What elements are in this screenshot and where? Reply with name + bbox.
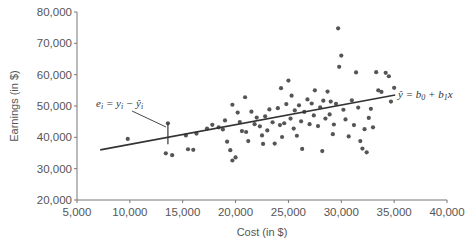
data-point — [323, 116, 327, 120]
data-point — [273, 142, 277, 146]
data-point — [328, 112, 332, 116]
scatter-chart: 5,00010,00015,00020,00025,00030,00035,00… — [0, 0, 476, 242]
y-tick-label: 20,000 — [37, 194, 72, 206]
y-tick-label: 30,000 — [37, 163, 72, 175]
y-tick-label: 40,000 — [37, 131, 72, 143]
x-tick-label: 40,000 — [429, 206, 464, 218]
data-point — [258, 124, 262, 128]
residual-leader — [132, 111, 166, 127]
data-point — [300, 147, 304, 151]
data-point — [339, 53, 343, 57]
x-axis-label: Cost (in $) — [237, 226, 288, 238]
data-point — [387, 74, 391, 78]
data-point — [297, 103, 301, 107]
data-point — [249, 110, 253, 114]
data-point — [243, 95, 247, 99]
data-point — [293, 108, 297, 112]
data-point — [354, 70, 358, 74]
data-point — [371, 125, 375, 129]
data-point — [280, 135, 284, 139]
data-point — [389, 100, 393, 104]
data-point — [358, 139, 362, 143]
data-point — [392, 86, 396, 90]
residual-equation: ei = yi − ŷi — [96, 97, 143, 111]
data-point — [379, 90, 383, 94]
data-point — [316, 124, 320, 128]
data-point — [246, 139, 250, 143]
y-tick-label: 80,000 — [37, 6, 72, 18]
data-point — [278, 123, 282, 127]
data-point — [286, 79, 290, 83]
data-point — [374, 70, 378, 74]
data-point — [267, 107, 271, 111]
x-tick-label: 20,000 — [218, 206, 253, 218]
data-point — [313, 88, 317, 92]
data-point — [263, 114, 267, 118]
data-point — [223, 118, 227, 122]
data-point — [321, 99, 325, 103]
data-point — [270, 120, 274, 124]
data-point — [288, 116, 292, 120]
data-point — [244, 130, 248, 134]
data-point — [329, 100, 333, 104]
data-point — [384, 71, 388, 75]
data-point — [305, 97, 309, 101]
data-point — [126, 137, 130, 141]
data-point — [170, 153, 174, 157]
data-point — [279, 86, 283, 90]
data-point — [290, 94, 294, 98]
data-point — [164, 151, 168, 155]
data-point — [236, 110, 240, 114]
data-points — [126, 26, 397, 162]
data-point — [282, 121, 286, 125]
data-point — [210, 123, 214, 127]
y-tick-label: 50,000 — [37, 100, 72, 112]
data-point — [276, 106, 280, 110]
data-point — [320, 149, 324, 153]
data-point — [337, 65, 341, 69]
data-point — [343, 117, 347, 121]
data-point — [332, 122, 336, 126]
data-point — [284, 102, 288, 106]
data-point — [367, 116, 371, 120]
data-point — [230, 103, 234, 107]
data-point — [265, 128, 269, 132]
x-tick-label: 15,000 — [165, 206, 200, 218]
data-point — [356, 105, 360, 109]
data-point — [350, 98, 354, 102]
data-point — [292, 126, 296, 130]
x-tick-label: 5,000 — [63, 206, 92, 218]
data-point — [341, 108, 345, 112]
data-point — [225, 140, 229, 144]
data-point — [336, 26, 340, 30]
data-point — [307, 122, 311, 126]
data-point — [261, 142, 265, 146]
data-point — [260, 133, 264, 137]
annotations: ei = yi − ŷiŷ = b0 + b1x — [96, 88, 453, 144]
data-point — [347, 134, 351, 138]
data-point — [233, 155, 237, 159]
data-point — [255, 115, 259, 119]
data-point — [228, 148, 232, 152]
data-point — [352, 123, 356, 127]
data-point — [331, 132, 335, 136]
y-tick-label: 70,000 — [37, 37, 72, 49]
data-point — [253, 122, 257, 126]
data-point — [295, 134, 299, 138]
data-point — [365, 150, 369, 154]
regression-equation: ŷ = b0 + b1x — [397, 88, 453, 102]
data-point — [310, 101, 314, 105]
data-point — [369, 107, 373, 111]
data-point — [362, 127, 366, 131]
data-point — [191, 148, 195, 152]
data-point — [240, 129, 244, 133]
x-tick-label: 25,000 — [271, 206, 306, 218]
y-axis-label: Earnings (in $) — [8, 70, 20, 142]
data-point — [360, 147, 364, 151]
data-point — [325, 89, 329, 93]
data-point — [186, 147, 190, 151]
y-tick-label: 60,000 — [37, 69, 72, 81]
data-point — [312, 113, 316, 117]
data-point — [230, 158, 234, 162]
x-tick-label: 10,000 — [112, 206, 147, 218]
